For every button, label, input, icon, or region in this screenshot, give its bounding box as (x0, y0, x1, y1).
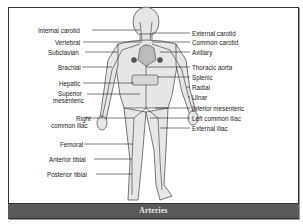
label-femoral: Femoral (60, 141, 83, 148)
label-splenic: Splenic (192, 74, 213, 81)
body-silhouette (97, 7, 198, 200)
label-inferior-mesenteric: Inferior mesenteric (192, 105, 244, 112)
label-thoracic-aorta: Thoracic aorta (192, 64, 232, 71)
label-hepatic: Hepatic (59, 80, 80, 87)
label-left-common-iliac: Left common iliac (192, 115, 241, 122)
label-subclavian: Subclavian (48, 49, 79, 56)
label-anterior-tibial: Anterior tibial (49, 156, 86, 163)
label-superior-mesenteric-1: Superior (58, 90, 82, 97)
label-right-common-iliac-1: Right (76, 115, 91, 122)
label-ulnar: Ulnar (192, 94, 207, 101)
label-radial: Radial (192, 84, 210, 91)
label-common-carotid: Common carotid (192, 39, 238, 46)
label-external-iliac: External iliac (192, 125, 228, 132)
label-right-common-iliac-2: common iliac (51, 122, 88, 129)
diagram-caption: Arteries (8, 203, 299, 218)
label-external-carotid: External carotid (192, 30, 236, 37)
label-internal-carotid: Internal carotid (38, 27, 80, 34)
label-axillary: Axillary (192, 49, 212, 56)
label-posterior-tibial: Posterior tibial (47, 171, 87, 178)
label-superior-mesenteric-2: mesenteric (53, 97, 84, 104)
label-brachial: Brachial (58, 64, 81, 71)
label-vertebral: Vertebral (55, 39, 80, 46)
